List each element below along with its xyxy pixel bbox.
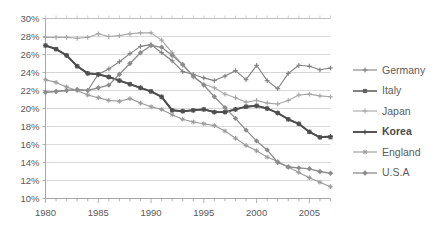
y-axis-label: 22% (20, 85, 40, 96)
legend-label: Japan (378, 106, 411, 117)
data-point-marker (363, 89, 367, 93)
data-point-marker (362, 170, 367, 175)
plus-marker-icon (352, 125, 378, 139)
line-chart: 30%28%26%24%22%20%18%16%14%12%10%1980198… (0, 0, 445, 236)
legend-label: Korea (378, 126, 412, 137)
legend-label: England (378, 147, 421, 158)
y-axis-label: 14% (20, 157, 40, 168)
y-axis-label: 24% (20, 67, 40, 78)
legend-label: U.S.A (378, 167, 409, 178)
y-axis-label: 16% (20, 139, 40, 150)
y-axis-label: 18% (20, 121, 40, 132)
y-axis-label: 12% (20, 175, 40, 186)
legend-item-korea[interactable]: Korea (352, 122, 444, 143)
square-marker-icon (352, 84, 378, 98)
y-axis-label: 26% (20, 49, 40, 60)
diamond-marker-icon (352, 166, 378, 180)
x-axis-label: 2005 (299, 207, 320, 218)
x-axis-label: 2000 (246, 207, 267, 218)
plus-marker-icon (352, 104, 378, 118)
legend-item-usa[interactable]: U.S.A (352, 163, 444, 184)
plus-marker-icon (352, 63, 378, 77)
legend-label: Germany (378, 65, 425, 76)
legend-label: Italy (378, 85, 401, 96)
y-axis-label: 20% (20, 103, 40, 114)
legend-item-italy[interactable]: Italy (352, 81, 444, 102)
y-axis-label: 28% (20, 31, 40, 42)
x-axis-label: 1985 (88, 207, 109, 218)
legend-item-germany[interactable]: Germany (352, 60, 444, 81)
star-marker-icon (352, 145, 378, 159)
y-axis-label: 10% (20, 193, 40, 204)
x-axis-label: 1995 (193, 207, 214, 218)
x-axis-label: 1990 (140, 207, 161, 218)
chart-legend: GermanyItalyJapanKoreaEnglandU.S.A (352, 60, 444, 183)
legend-item-england[interactable]: England (352, 142, 444, 163)
legend-item-japan[interactable]: Japan (352, 101, 444, 122)
x-axis-label: 1980 (35, 207, 56, 218)
y-axis-label: 30% (20, 13, 40, 24)
